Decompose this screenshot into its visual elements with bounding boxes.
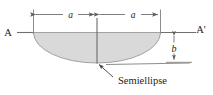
- axis-label-right: A': [196, 24, 206, 35]
- dim-b-label: b: [172, 43, 177, 54]
- semiellipse-figure: A A' a a b Semiellipse: [0, 0, 213, 95]
- dim-a-left-label: a: [68, 10, 73, 20]
- semiellipse-caption: Semiellipse: [118, 75, 167, 86]
- caption-leader-line: [99, 65, 113, 78]
- figure-canvas: A A' a a b Semiellipse: [0, 0, 213, 95]
- dim-a-right-label: a: [131, 10, 136, 20]
- axis-label-left: A: [4, 27, 12, 38]
- baseline-reference: [106, 63, 190, 65]
